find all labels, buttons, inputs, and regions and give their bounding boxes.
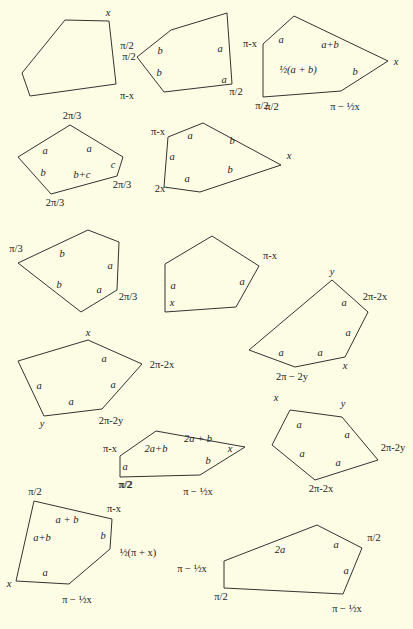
label-p12: b	[100, 531, 105, 542]
label-p2: a	[217, 44, 222, 55]
label-p6: a	[96, 285, 101, 296]
pentagon-p3	[263, 16, 388, 97]
label-p1: x	[106, 8, 111, 19]
label-p1: π-x	[120, 91, 134, 102]
label-p4: c	[111, 160, 116, 171]
label-p13: a	[343, 566, 348, 577]
label-p7: a	[239, 277, 244, 288]
label-p8: 2π-2x	[363, 292, 388, 303]
label-p6: 2π/3	[119, 292, 138, 303]
pentagon-p8	[249, 280, 368, 367]
label-p9: a	[68, 397, 73, 408]
label-p2: b	[157, 46, 162, 57]
label-p12: π − ½x	[62, 595, 92, 606]
label-p4: 2π/3	[46, 198, 65, 209]
label-p5: a	[169, 152, 174, 163]
pentagon-p11	[272, 410, 378, 480]
label-p9: a	[110, 380, 115, 391]
pentagon-outlines	[0, 0, 413, 629]
label-p9: a	[101, 354, 106, 365]
label-p11: a	[344, 430, 349, 441]
label-p4: 2π/3	[113, 180, 132, 191]
label-p8: y	[330, 267, 335, 278]
label-p4: 2π/3	[63, 111, 82, 122]
label-p9: x	[86, 328, 91, 339]
pentagon-p13	[224, 525, 362, 594]
label-p11: 2π-2x	[309, 484, 334, 495]
label-p3: b	[352, 67, 357, 78]
pentagon-p7	[165, 236, 259, 312]
pentagon-p5	[164, 123, 281, 192]
label-p12: x	[7, 579, 12, 590]
label-p8: a	[278, 348, 283, 359]
label-p13: π/2	[367, 533, 380, 544]
label-p4: b	[40, 168, 45, 179]
label-p12: π-x	[107, 504, 121, 515]
label-p9: y	[40, 419, 45, 430]
label-p3: a	[278, 35, 283, 46]
label-p12: π/2	[119, 480, 132, 491]
label-p8: 2π − 2y	[276, 372, 308, 383]
label-p5: x	[287, 151, 292, 162]
label-p11: a	[296, 420, 301, 431]
label-p7: π-x	[263, 251, 277, 262]
pentagon-tilings-figure: xπ/2π-xπ/2babaπ/2π-xaa+bx½(a + b)bπ/2π −…	[0, 0, 413, 629]
label-p4: a	[42, 146, 47, 157]
label-p7: x	[170, 298, 175, 309]
label-p3: π-x	[243, 39, 257, 50]
label-p10: 2a + b	[184, 434, 212, 445]
label-p3: x	[394, 57, 399, 68]
label-p6: a	[107, 261, 112, 272]
label-p12: a+b	[33, 533, 51, 544]
label-p10: x	[228, 444, 233, 455]
label-p12: π/2	[28, 487, 41, 498]
label-p2: b	[156, 68, 161, 79]
label-p10: π-x	[103, 444, 117, 455]
label-p3: a+b	[321, 40, 339, 51]
label-p8: a	[341, 298, 346, 309]
label-p5: b	[227, 165, 232, 176]
label-p5: a	[184, 174, 189, 185]
pentagon-p4	[18, 125, 123, 194]
label-p12: a + b	[56, 515, 79, 526]
label-p10: b	[205, 456, 210, 467]
label-p11: a	[335, 458, 340, 469]
label-p5: π-x	[151, 127, 165, 138]
label-p5: b	[229, 136, 234, 147]
label-p7: a	[170, 281, 175, 292]
label-p8: a	[345, 328, 350, 339]
label-p11: x	[274, 393, 279, 404]
label-p13: a	[333, 540, 338, 551]
label-p13: 2a	[275, 545, 286, 556]
label-p2: π/2	[120, 41, 133, 52]
label-p12: a	[42, 568, 47, 579]
label-p3: ½(a + b)	[279, 65, 317, 76]
pentagon-p1	[22, 20, 116, 96]
label-p13: π/2	[214, 592, 227, 603]
label-p2: a	[221, 75, 226, 86]
label-p12: ½(π + x)	[120, 548, 157, 559]
label-p4: b+c	[74, 170, 91, 181]
label-p9: 2π-2x	[150, 360, 175, 371]
label-p6: b	[59, 249, 64, 260]
label-p13: π − ½x	[177, 564, 207, 575]
pentagon-p6	[18, 230, 119, 312]
label-p10: a	[122, 462, 127, 473]
label-p9: a	[36, 381, 41, 392]
label-p6: π/3	[9, 244, 22, 255]
label-p11: a	[299, 449, 304, 460]
pentagon-p9	[18, 340, 142, 416]
label-p11: 2π-2y	[381, 443, 406, 454]
label-p2: π/2	[229, 87, 242, 98]
pentagon-p10	[120, 431, 245, 477]
label-p8: x	[343, 361, 348, 372]
label-p5: π/2	[265, 102, 278, 113]
label-p13: π − ½x	[332, 604, 362, 615]
label-p10: π − ½x	[183, 487, 213, 498]
label-p5: a	[187, 131, 192, 142]
label-p6: b	[56, 280, 61, 291]
label-p3: π − ½x	[330, 102, 360, 113]
label-p9: 2π-2y	[99, 416, 124, 427]
label-p5: 2x	[155, 184, 166, 195]
label-p10: 2a+b	[145, 444, 168, 455]
